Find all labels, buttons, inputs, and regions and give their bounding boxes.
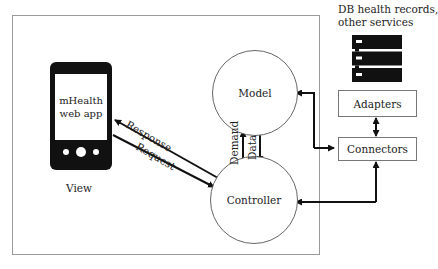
model-label: Model — [238, 87, 271, 99]
connectors-label: Connectors — [347, 143, 408, 155]
phone-home-button-icon — [76, 147, 86, 157]
adapters-node: Adapters — [338, 90, 417, 117]
controller-label: Controller — [227, 194, 282, 206]
phone-screen: mHealth web app — [55, 74, 107, 140]
external-title-line-2: other services — [338, 16, 438, 29]
model-node: Model — [212, 50, 298, 136]
view-device-label: mHealth web app — [55, 94, 107, 120]
data-label: Data — [246, 135, 258, 160]
adapters-label: Adapters — [353, 98, 401, 110]
phone-button-left-icon — [63, 149, 69, 155]
external-title-line-1: DB health records, — [338, 3, 438, 16]
phone-device-icon: mHealth web app — [50, 62, 112, 170]
external-services-title: DB health records, other services — [338, 3, 438, 29]
connectors-to-model-arrow — [296, 93, 314, 148]
view-caption: View — [66, 182, 92, 194]
view-device-label-line-1: mHealth — [55, 94, 107, 107]
connectors-node: Connectors — [338, 137, 417, 161]
phone-button-right-icon — [93, 149, 99, 155]
demand-label: Demand — [228, 121, 240, 165]
server-rack-icon — [352, 35, 402, 82]
controller-node: Controller — [210, 156, 298, 244]
view-device-label-line-2: web app — [55, 107, 107, 120]
